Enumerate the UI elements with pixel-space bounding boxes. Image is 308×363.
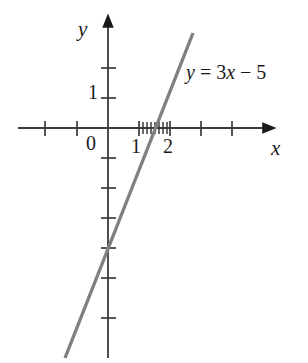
equation-annotation: y = 3x − 5 bbox=[186, 62, 266, 82]
x-tick-label-2: 2 bbox=[163, 136, 173, 156]
plotted-line bbox=[65, 33, 193, 358]
x-tick-label-1: 1 bbox=[131, 136, 141, 156]
equation-minus: − bbox=[240, 61, 251, 83]
y-axis-label: y bbox=[78, 19, 87, 40]
equation-equals: = bbox=[200, 61, 211, 83]
origin-label: 0 bbox=[86, 133, 96, 153]
y-tick-label-1: 1 bbox=[88, 82, 98, 102]
graph-figure: y x 0 1 2 1 y = 3x − 5 bbox=[0, 0, 308, 363]
x-axis-label: x bbox=[271, 138, 280, 159]
equation-coefficient: 3 bbox=[216, 61, 226, 83]
equation-constant: 5 bbox=[256, 61, 266, 83]
coordinate-plane-svg bbox=[0, 0, 308, 363]
equation-lhs: y bbox=[186, 61, 195, 83]
equation-variable: x bbox=[226, 61, 235, 83]
